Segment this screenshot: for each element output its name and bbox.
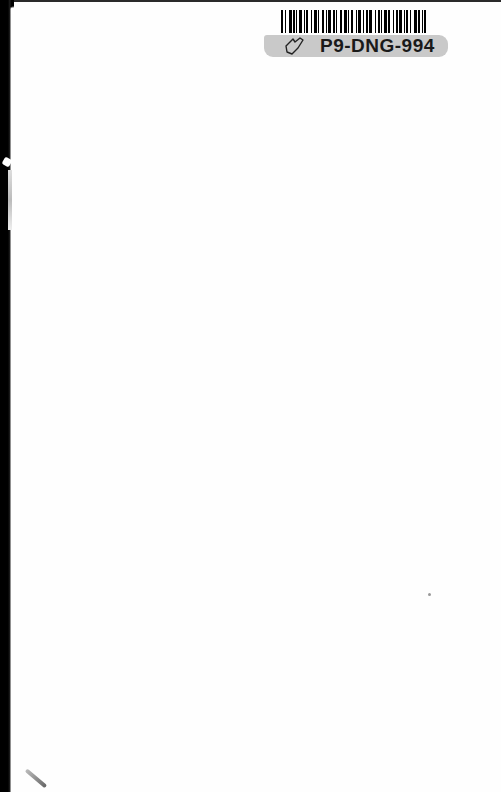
- scanned-page: P9-DNG-994: [0, 0, 501, 792]
- binding-edge-shadow: [0, 0, 11, 792]
- barcode-icon: [281, 10, 445, 33]
- binding-highlight: [8, 170, 12, 230]
- barcode-label-band: P9-DNG-994: [264, 35, 448, 57]
- dust-speck: [428, 593, 431, 596]
- library-barcode-sticker: P9-DNG-994: [262, 4, 450, 54]
- page-top-edge: [0, 0, 501, 2]
- barcode-id-text: P9-DNG-994: [320, 35, 435, 57]
- tag-outline-icon: [284, 37, 306, 55]
- corner-mark: [25, 768, 47, 788]
